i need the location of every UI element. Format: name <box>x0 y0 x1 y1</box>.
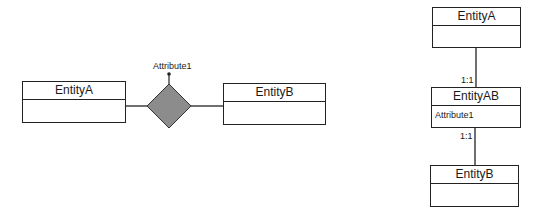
entity-b-box[interactable]: EntityB <box>223 83 326 125</box>
relationship-attribute-label: Attribute1 <box>153 61 192 71</box>
entity-ab-box[interactable]: EntityAB Attribute1 <box>431 87 521 128</box>
right-entity-b-box[interactable]: EntityB <box>430 165 519 207</box>
entity-a-title: EntityA <box>23 82 125 100</box>
entity-b-title: EntityB <box>224 84 325 102</box>
relationship-diamond[interactable] <box>147 84 191 128</box>
right-entity-a-title: EntityA <box>433 8 520 26</box>
entity-ab-title: EntityAB <box>432 88 520 106</box>
cardinality-bottom-label: 1:1 <box>460 131 473 141</box>
right-entity-a-box[interactable]: EntityA <box>432 7 521 48</box>
entity-ab-attribute: Attribute1 <box>432 106 520 124</box>
right-entity-b-title: EntityB <box>431 166 518 184</box>
cardinality-top-label: 1:1 <box>461 75 474 85</box>
entity-a-box[interactable]: EntityA <box>22 81 126 123</box>
attribute-dot <box>167 72 171 76</box>
